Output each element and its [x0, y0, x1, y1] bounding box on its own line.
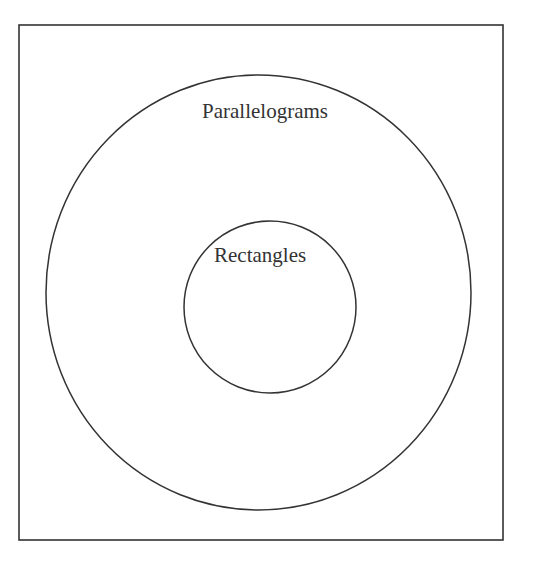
outer-circle-parallelograms — [46, 75, 471, 510]
outer-set-label: Parallelograms — [202, 99, 328, 123]
venn-diagram: Parallelograms Rectangles — [0, 0, 542, 561]
inner-set-label: Rectangles — [214, 243, 306, 267]
